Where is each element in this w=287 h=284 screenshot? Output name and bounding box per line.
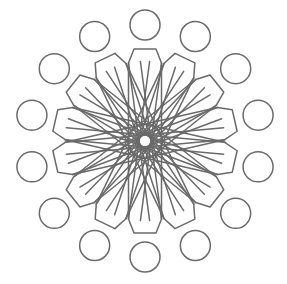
rosette-figure <box>0 0 287 284</box>
